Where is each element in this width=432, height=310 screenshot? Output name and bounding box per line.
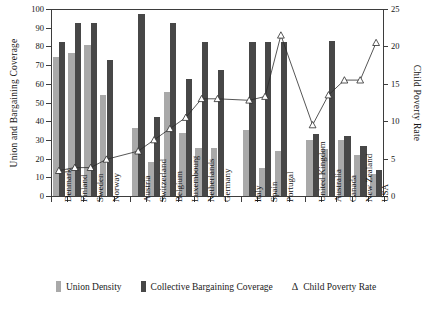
x-axis-label-canada: Canada xyxy=(348,175,358,202)
x-axis-label-new-zealand: New Zealand xyxy=(364,154,374,202)
x-axis-label-portugal: Portugal xyxy=(285,172,295,203)
legend-triangle-icon: Δ xyxy=(292,282,298,292)
x-axis-label-sweden: Sweden xyxy=(95,174,105,203)
x-axis-label-spain: Spain xyxy=(269,181,279,202)
x-axis-label-finland: Finland xyxy=(79,174,89,202)
poverty-marker-triangle xyxy=(262,93,269,99)
x-axis-label-norway: Norway xyxy=(111,173,121,202)
x-axis-tick xyxy=(305,197,306,202)
legend-item-collective-bargaining-coverage[interactable]: Collective Bargaining Coverage xyxy=(141,281,273,292)
poverty-marker-triangle xyxy=(151,137,158,143)
y-axis-right-tick-label: 15 xyxy=(391,79,431,89)
legend-swatch-icon xyxy=(141,281,146,292)
x-axis-label-germany: Germany xyxy=(222,169,232,203)
y-axis-right-tick-label: 25 xyxy=(391,4,431,14)
x-axis-label-usa: USA xyxy=(380,184,390,202)
y-axis-left-tick-label: 80 xyxy=(4,41,44,51)
x-axis-tick xyxy=(130,197,131,202)
y-axis-left-tick-label: 70 xyxy=(4,60,44,70)
x-axis-label-netherlands: Netherlands xyxy=(206,159,216,202)
poverty-marker-triangle xyxy=(167,125,174,131)
legend-swatch-icon xyxy=(56,281,61,292)
y-axis-left-tick-label: 0 xyxy=(4,191,44,201)
chart-container: Union and Bargaining Coverage Child Pove… xyxy=(0,0,432,310)
poverty-line-path xyxy=(59,35,376,170)
legend-item-child-poverty-rate[interactable]: ΔChild Poverty Rate xyxy=(292,282,376,292)
y-axis-left-tick-label: 10 xyxy=(4,172,44,182)
poverty-marker-triangle xyxy=(373,39,380,45)
y-axis-left-tick-label: 90 xyxy=(4,23,44,33)
y-axis-left-tick-label: 50 xyxy=(4,98,44,108)
y-axis-right-tick-label: 10 xyxy=(391,116,431,126)
legend-label: Collective Bargaining Coverage xyxy=(151,282,273,292)
x-axis-label-austria: Austria xyxy=(142,176,152,203)
y-axis-left-tick-label: 30 xyxy=(4,135,44,145)
y-axis-left-tick-label: 100 xyxy=(4,4,44,14)
x-axis-label-united-kingdom: United Kingdom xyxy=(317,141,327,202)
x-axis-label-switzerland: Switzerland xyxy=(158,159,168,202)
x-axis-label-australia: Australia xyxy=(333,169,343,202)
y-axis-left-tick-label: 20 xyxy=(4,154,44,164)
x-axis-tick xyxy=(241,197,242,202)
x-axis-label-belgium: Belgium xyxy=(174,171,184,202)
x-axis-label-luxembourg: Luxembourg xyxy=(190,156,200,202)
legend-item-union-density[interactable]: Union Density xyxy=(56,281,122,292)
y-axis-right-tick-label: 0 xyxy=(391,191,431,201)
legend-label: Union Density xyxy=(66,282,122,292)
plot-area: 0102030405060708090100 0510152025 xyxy=(51,9,384,196)
poverty-marker-triangle xyxy=(135,148,142,154)
y-axis-right-tick-label: 20 xyxy=(391,41,431,51)
y-axis-left-tick-label: 60 xyxy=(4,79,44,89)
legend-label: Child Poverty Rate xyxy=(303,282,376,292)
poverty-marker-triangle xyxy=(278,32,285,38)
poverty-marker-triangle xyxy=(309,122,316,128)
x-axis-label-italy: Italy xyxy=(253,186,263,203)
y-axis-right-tick-label: 5 xyxy=(391,154,431,164)
chart-legend: Union DensityCollective Bargaining Cover… xyxy=(0,281,432,292)
x-axis-tick xyxy=(51,197,52,202)
x-axis-label-denmark: Denmark xyxy=(63,169,73,203)
y-axis-left-tick-label: 40 xyxy=(4,116,44,126)
